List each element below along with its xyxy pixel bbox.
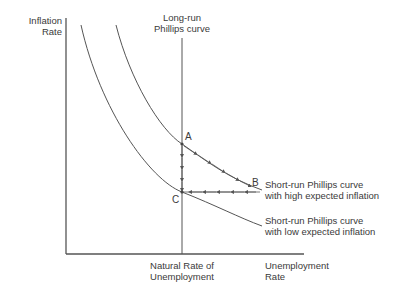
- low-curve-label-line1: Short-run Phillips curve: [265, 215, 375, 226]
- x-axis-label: Unemployment Rate: [265, 260, 329, 282]
- point-a-label: A: [185, 131, 192, 142]
- x-axis-label-line1: Unemployment: [265, 260, 329, 271]
- natural-rate-label: Natural Rate of Unemployment: [135, 260, 229, 282]
- natural-rate-label-line2: Unemployment: [135, 271, 229, 282]
- point-c-label: C: [172, 194, 179, 205]
- low-curve-label: Short-run Phillips curve with low expect…: [265, 215, 375, 237]
- x-axis-label-line2: Rate: [265, 271, 329, 282]
- high-curve-label: Short-run Phillips curve with high expec…: [265, 179, 379, 201]
- long-run-label-line1: Long-run: [140, 12, 224, 23]
- point-c-dot: [180, 190, 183, 193]
- long-run-label: Long-run Phillips curve: [140, 12, 224, 34]
- high-curve-label-line2: with high expected inflation: [265, 190, 379, 201]
- short-run-curve-high: [116, 25, 262, 190]
- high-curve-label-line1: Short-run Phillips curve: [265, 179, 379, 190]
- point-a-dot: [180, 142, 183, 145]
- y-axis-label-line2: Rate: [10, 26, 62, 37]
- low-curve-label-line2: with low expected inflation: [265, 226, 375, 237]
- point-b-label: B: [252, 177, 259, 188]
- long-run-label-line2: Phillips curve: [140, 23, 224, 34]
- natural-rate-label-line1: Natural Rate of: [135, 260, 229, 271]
- y-axis-label-line1: Inflation: [10, 15, 62, 26]
- y-axis-label: Inflation Rate: [10, 15, 62, 37]
- phillips-curve-diagram: [0, 0, 413, 298]
